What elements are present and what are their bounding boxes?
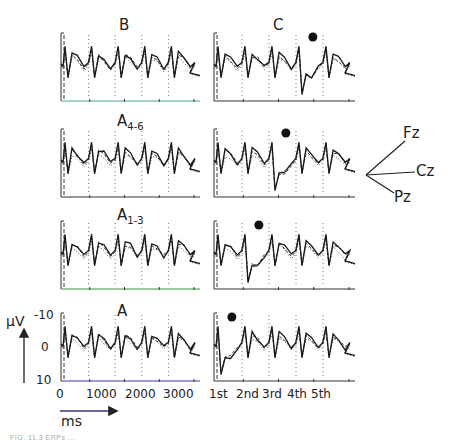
erp-panel <box>214 221 355 290</box>
deviant-marker-dot <box>227 313 236 322</box>
x-tick-5th: 5th <box>311 387 331 401</box>
electrode-legend <box>366 141 415 193</box>
x-unit-label: ms <box>61 413 82 429</box>
trace-fz <box>214 46 355 94</box>
legend-line-pz <box>366 175 394 193</box>
deviant-marker-dot <box>254 221 263 230</box>
y-tick-text: 0 <box>41 340 49 354</box>
x-tick-text: 3rd <box>262 387 282 401</box>
x-tick-3rd: 3rd <box>262 387 282 401</box>
x-tick-text: 0 <box>56 387 64 401</box>
erp-panel <box>61 129 200 198</box>
deviant-marker-dot <box>308 33 317 42</box>
panels-group <box>61 33 355 383</box>
erp-panel <box>61 313 200 382</box>
x-tick-text: 2nd <box>236 387 259 401</box>
x-tick-text: 5th <box>311 387 331 401</box>
x-tick-text: 1000 <box>86 387 117 401</box>
trace-cz <box>214 49 355 93</box>
erp-panel <box>214 313 355 382</box>
x-tick-2nd: 2nd <box>236 387 259 401</box>
trace-fz <box>214 326 355 375</box>
trace-fz <box>61 326 200 357</box>
trace-pz <box>214 53 355 92</box>
figure-caption: FIG. 11.3 ERPs ... <box>10 434 75 441</box>
y-tick-0: 0 <box>41 340 49 354</box>
deviant-marker-dot <box>281 129 290 138</box>
erp-panel <box>61 221 200 290</box>
trace-pz <box>214 149 355 188</box>
x-tick-text: 2000 <box>125 387 156 401</box>
x-tick-3000: 3000 <box>163 387 194 401</box>
legend-label-text: Fz <box>403 124 420 142</box>
legend-label-cz: Cz <box>416 162 434 180</box>
legend-label-fz: Fz <box>403 124 420 142</box>
trace-pz <box>214 241 355 280</box>
x-tick-1000: 1000 <box>86 387 117 401</box>
x-unit-text: ms <box>61 413 82 429</box>
legend-label-pz: Pz <box>394 188 411 206</box>
y-tick-text: 10 <box>36 373 51 387</box>
trace-fz <box>61 46 200 77</box>
legend-line-cz <box>366 172 415 175</box>
x-tick-text: 4th <box>287 387 307 401</box>
y-unit-label: µV <box>6 313 24 329</box>
erp-panel <box>61 33 200 102</box>
y-unit-text: µV <box>6 313 24 329</box>
x-tick-text: 1st <box>209 387 228 401</box>
caption-text: FIG. 11.3 ERPs ... <box>10 434 75 441</box>
trace-cz <box>214 145 355 189</box>
x-tick-4th: 4th <box>287 387 307 401</box>
x-tick-text: 3000 <box>163 387 194 401</box>
erp-waveforms-canvas <box>0 0 452 443</box>
legend-label-text: Pz <box>394 188 411 206</box>
x-tick-2000: 2000 <box>125 387 156 401</box>
legend-label-text: Cz <box>416 162 434 180</box>
y-tick-text: -10 <box>34 308 54 322</box>
y-tick-10: 10 <box>36 373 51 387</box>
x-tick-0: 0 <box>56 387 64 401</box>
y-tick-neg10: -10 <box>34 308 54 322</box>
trace-fz <box>214 234 355 283</box>
erp-panel <box>214 129 355 198</box>
erp-panel <box>214 33 355 102</box>
x-tick-1st: 1st <box>209 387 228 401</box>
trace-fz <box>214 142 355 191</box>
legend-line-fz <box>366 141 405 175</box>
trace-fz <box>61 234 200 265</box>
